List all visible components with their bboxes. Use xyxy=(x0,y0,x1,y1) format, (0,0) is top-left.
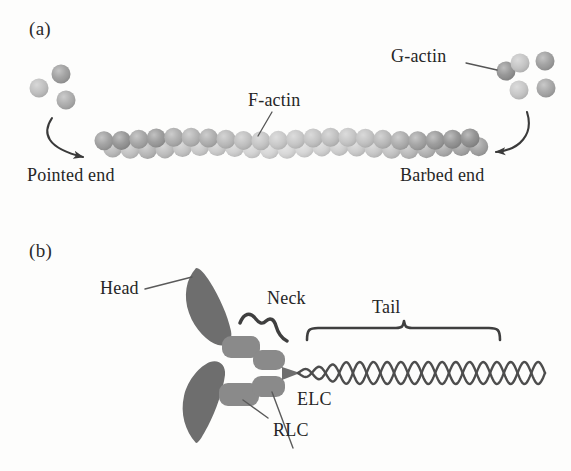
f-actin-subunit xyxy=(147,129,166,148)
f-actin-subunit xyxy=(121,140,140,159)
f-actin-subunit xyxy=(452,137,471,156)
f-actin-subunit xyxy=(469,137,488,156)
g-actin-monomer xyxy=(511,54,530,73)
leader-line-rlc xyxy=(243,400,268,418)
f-actin-subunit xyxy=(269,131,288,150)
g-actin-label: G-actin xyxy=(391,46,446,67)
head-tail-junction xyxy=(282,367,300,380)
figure-root: (a) G-actin xyxy=(0,0,571,471)
f-actin-subunit xyxy=(260,140,279,159)
f-actin-subunit xyxy=(373,130,392,149)
f-actin-subunit xyxy=(321,128,340,147)
neck-label: Neck xyxy=(267,288,306,309)
f-actin-subunit xyxy=(295,139,314,158)
myosin-head-upper xyxy=(186,268,231,345)
f-actin-subunit xyxy=(365,139,384,158)
g-actin-monomer xyxy=(537,79,556,98)
panel-a-label: (a) xyxy=(29,18,51,40)
g-actin-monomer xyxy=(52,65,71,84)
light-chain-upper-elc xyxy=(253,350,285,370)
elc-label: ELC xyxy=(297,389,332,410)
g-actin-monomer xyxy=(30,79,49,98)
f-actin-subunit xyxy=(347,138,366,157)
filament-row-bottom xyxy=(103,137,488,159)
light-chain-upper-rlc xyxy=(222,336,260,358)
f-actin-subunit xyxy=(173,138,192,157)
panel-a-graphics xyxy=(0,0,571,471)
f-actin-subunit xyxy=(138,140,157,159)
f-actin-subunit xyxy=(129,130,148,149)
f-actin-subunit xyxy=(330,137,349,156)
f-actin-subunit xyxy=(208,137,227,156)
g-actin-monomer xyxy=(536,52,555,71)
f-actin-subunit xyxy=(434,138,453,157)
tail-coiled-coil-strand-a xyxy=(298,362,545,384)
f-actin-subunit xyxy=(443,130,462,149)
myosin-head-lower xyxy=(183,361,225,443)
g-actin-monomers-left xyxy=(30,65,76,110)
tail-coiled-coil-strand-b xyxy=(298,362,545,384)
f-actin-subunit xyxy=(417,139,436,158)
f-actin-subunit xyxy=(103,139,122,158)
arrow-pointed-end xyxy=(47,118,83,157)
panel-b-label: (b) xyxy=(29,240,52,262)
f-actin-subunit xyxy=(391,131,410,150)
g-actin-monomers-right xyxy=(497,52,556,100)
head-label: Head xyxy=(100,278,139,299)
f-actin-subunit xyxy=(182,128,201,147)
leader-line-head xyxy=(145,277,192,289)
tail-bracket xyxy=(307,321,500,340)
f-actin-subunit xyxy=(156,139,175,158)
f-actin-subunit xyxy=(304,129,323,148)
f-actin-subunit xyxy=(199,129,218,148)
leader-line-g-actin xyxy=(466,63,497,70)
f-actin-subunit xyxy=(234,131,253,150)
tail-label: Tail xyxy=(372,297,401,318)
neck-marker xyxy=(240,314,287,341)
f-actin-subunit xyxy=(461,129,480,148)
f-actin-subunit xyxy=(164,128,183,147)
rlc-label: RLC xyxy=(273,420,309,441)
g-actin-monomer xyxy=(57,91,76,110)
arrow-barbed-end xyxy=(496,112,529,152)
f-actin-subunit xyxy=(225,138,244,157)
f-actin-subunit xyxy=(382,140,401,159)
f-actin-subunit xyxy=(251,131,270,150)
f-actin-subunit xyxy=(217,130,236,149)
f-actin-subunit xyxy=(339,128,358,147)
barbed-end-label: Barbed end xyxy=(400,165,484,186)
f-actin-subunit xyxy=(278,140,297,159)
f-actin-subunit xyxy=(243,139,262,158)
leader-line-f-actin xyxy=(258,112,272,136)
f-actin-subunit xyxy=(112,131,131,150)
light-chain-lower-elc xyxy=(252,376,285,397)
f-actin-label: F-actin xyxy=(248,90,300,111)
panel-b-graphics xyxy=(0,0,571,471)
f-actin-subunit xyxy=(408,131,427,150)
f-actin-subunit xyxy=(312,137,331,156)
f-actin-subunit xyxy=(426,131,445,150)
filament-row-top xyxy=(95,128,480,151)
f-actin-subunit xyxy=(356,129,375,148)
f-actin-subunit xyxy=(190,137,209,156)
g-actin-monomer xyxy=(510,81,529,100)
g-actin-monomer xyxy=(497,62,516,81)
f-actin-subunit xyxy=(400,140,419,159)
f-actin-subunit xyxy=(95,131,114,150)
pointed-end-label: Pointed end xyxy=(27,165,115,186)
light-chain-lower-rlc xyxy=(219,383,259,406)
f-actin-subunit xyxy=(286,130,305,149)
